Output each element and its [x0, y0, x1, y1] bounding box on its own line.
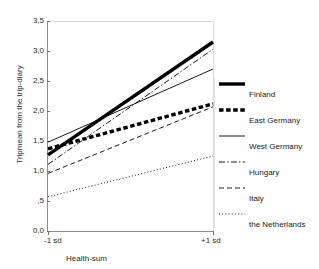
legend-label: Italy: [249, 194, 264, 203]
legend-label: Hungary: [249, 168, 279, 177]
legend-item[interactable]: Finland: [219, 78, 319, 104]
legend-swatch-the-netherlands: [219, 210, 245, 218]
legend-label: West Germany: [249, 142, 302, 151]
legend-label: Finland: [249, 90, 275, 99]
legend-swatch-italy: [219, 184, 245, 192]
legend-item[interactable]: the Netherlands: [219, 208, 319, 234]
chart-figure: Tripmean from the trip-diary Health-sum …: [0, 0, 319, 269]
series-line-finland: [48, 42, 213, 155]
legend: FinlandEast GermanyWest GermanyHungaryIt…: [219, 78, 319, 234]
legend-item[interactable]: Hungary: [219, 156, 319, 182]
legend-swatch-hungary: [219, 158, 245, 166]
series-line-hungary: [48, 49, 213, 164]
legend-item[interactable]: West Germany: [219, 130, 319, 156]
series-line-east-germany: [48, 104, 213, 149]
legend-swatch-west-germany: [219, 132, 245, 140]
series-line-the-netherlands: [48, 156, 213, 197]
legend-divider: [214, 78, 215, 228]
legend-item[interactable]: Italy: [219, 182, 319, 208]
legend-item[interactable]: East Germany: [219, 104, 319, 130]
legend-swatch-finland: [219, 80, 245, 88]
series-line-italy: [48, 107, 213, 174]
legend-label: East Germany: [249, 116, 300, 125]
legend-swatch-east-germany: [219, 106, 245, 114]
legend-label: the Netherlands: [249, 220, 305, 229]
series-line-west-germany: [48, 69, 213, 142]
